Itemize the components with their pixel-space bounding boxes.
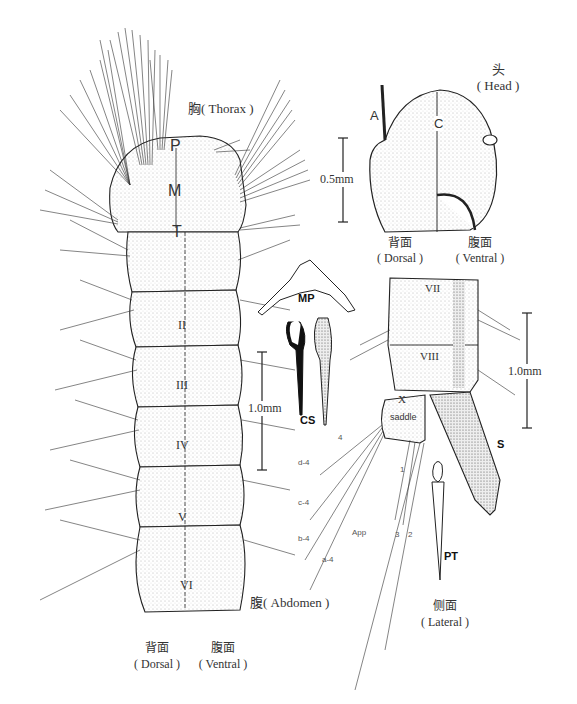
abdomen-dorsal-caption: 背面 ( Dorsal ) (122, 640, 192, 672)
abdomen-ventral-cn: 腹面 (188, 640, 258, 656)
seta-d4-label: d-4 (298, 458, 310, 467)
thorax-label-en: ( Thorax ) (201, 101, 254, 116)
head-dorsal-caption: 背面 ( Dorsal ) (368, 236, 432, 266)
larva-morphology-figure: 胸( Thorax ) P M T II III IV V VI 1.0mm 腹… (0, 0, 577, 704)
thorax-label: 胸( Thorax ) (188, 98, 254, 117)
segment-metathorax: T (172, 223, 182, 241)
segment-VII: VII (425, 282, 440, 294)
pecten-tooth (432, 462, 444, 581)
head-dorsal-cn: 背面 (368, 236, 432, 251)
head-label-cn: 头 (468, 62, 528, 78)
lateral-caption: 侧面 ( Lateral ) (410, 598, 480, 630)
pecten-tooth-label: PT (444, 550, 458, 562)
segment-II: II (178, 318, 186, 333)
mentum-plate (258, 260, 355, 315)
abdomen-ventral-en: ( Ventral ) (188, 656, 258, 672)
head-ventral-caption: 腹面 ( Ventral ) (445, 236, 515, 266)
seta-2-label: 2 (408, 530, 412, 539)
head (370, 85, 497, 232)
seta-1-label: 1 (400, 465, 404, 474)
head-label: 头 ( Head ) (468, 62, 528, 94)
comb-scale-light (314, 318, 331, 425)
mentum-label: MP (298, 292, 315, 304)
terminal-scale-label: 1.0mm (508, 364, 542, 379)
antenna-marker: A (370, 108, 379, 123)
seta-a4-label: a-4 (322, 555, 334, 564)
segment-mesothorax: M (168, 182, 181, 200)
thorax-label-cn: 胸 (188, 101, 201, 116)
segment-V: V (178, 510, 187, 525)
abdomen-scale-label: 1.0mm (248, 401, 282, 416)
segment-VIII: VIII (420, 350, 439, 362)
head-ventral-cn: 腹面 (445, 236, 515, 251)
segment-X: X (398, 393, 406, 405)
saddle-label: saddle (390, 412, 417, 422)
anal-papillae-label: App (352, 528, 366, 537)
seta-c4-label: c-4 (298, 498, 309, 507)
lateral-en: ( Lateral ) (410, 614, 480, 630)
abdomen-label-en: ( Abdomen ) (263, 595, 329, 610)
abdomen-dorsal-en: ( Dorsal ) (122, 656, 192, 672)
segment-IV: IV (176, 438, 189, 453)
seta-3-label: 3 (395, 530, 399, 539)
head-ventral-en: ( Ventral ) (445, 251, 515, 266)
comb-scale-label: CS (300, 414, 315, 426)
head-label-en: ( Head ) (468, 78, 528, 94)
abdomen-label-cn: 腹 (250, 595, 263, 610)
seta-4-label: 4 (338, 433, 342, 442)
seta-b4-label: b-4 (298, 534, 310, 543)
segment-III: III (176, 378, 188, 393)
siphon-label: S (497, 438, 504, 450)
segment-VI: VI (180, 578, 193, 593)
clypeus-marker: C (434, 116, 443, 131)
head-scale-label: 0.5mm (320, 172, 354, 187)
segment-prothorax: P (170, 137, 181, 155)
lateral-cn: 侧面 (410, 598, 480, 614)
abdomen-ventral-caption: 腹面 ( Ventral ) (188, 640, 258, 672)
abdomen-dorsal-cn: 背面 (122, 640, 192, 656)
abdomen-label: 腹( Abdomen ) (250, 592, 329, 611)
head-dorsal-en: ( Dorsal ) (368, 251, 432, 266)
abdomen (127, 232, 245, 612)
